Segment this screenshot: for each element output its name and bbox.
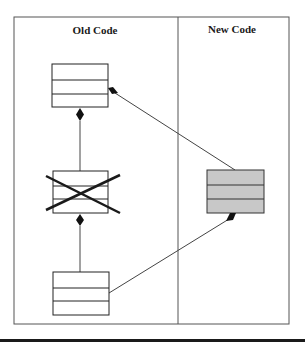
diagram: Old Code New Code bbox=[0, 0, 305, 344]
horizontal-rule bbox=[0, 339, 305, 342]
composition-diamond-icon bbox=[226, 213, 236, 221]
panel-label-new-code: New Code bbox=[197, 23, 267, 35]
composition-diamond-icon bbox=[76, 108, 84, 121]
diagram-canvas bbox=[0, 0, 305, 344]
connector-bottom-new bbox=[109, 219, 229, 293]
class-box-new[interactable] bbox=[207, 170, 264, 213]
panel-label-old-code: Old Code bbox=[60, 24, 130, 36]
composition-diamond-icon bbox=[108, 87, 118, 94]
composition-diamond-icon bbox=[76, 214, 84, 226]
class-box-top-old[interactable] bbox=[52, 64, 108, 107]
class-box-bottom-old[interactable] bbox=[53, 272, 109, 315]
connector-top-new bbox=[115, 93, 235, 170]
